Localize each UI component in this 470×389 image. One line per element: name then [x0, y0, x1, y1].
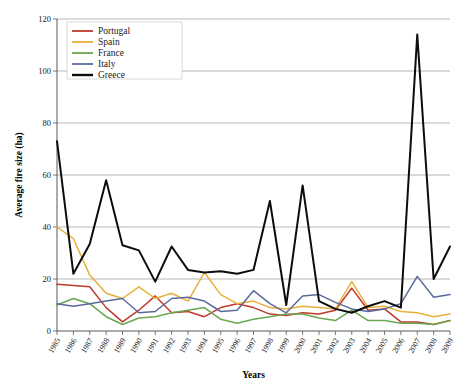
x-tick-label: 1999: [276, 337, 292, 355]
y-axis-title: Average fire size (ha): [14, 132, 25, 217]
x-tick-label: 1998: [259, 337, 275, 355]
x-tick-label: 2001: [308, 337, 324, 355]
x-tick-label: 1996: [227, 337, 243, 355]
x-tick-label: 1985: [46, 337, 62, 355]
x-axis-title: Years: [242, 370, 265, 380]
chart-container: 020406080100120 198519861987198819891990…: [0, 0, 470, 389]
y-tick-label: 100: [38, 66, 51, 76]
y-tick-label: 120: [38, 14, 51, 24]
y-tick-label: 40: [43, 222, 52, 232]
x-tick-label: 2007: [407, 337, 423, 355]
line-chart: 020406080100120 198519861987198819891990…: [0, 0, 470, 389]
x-tick-label: 1988: [96, 337, 112, 355]
x-tick-label: 1995: [210, 337, 226, 355]
x-tick-label: 1986: [63, 337, 79, 355]
x-tick-label: 2006: [390, 337, 406, 355]
y-tick-label: 60: [43, 170, 52, 180]
x-tick-label: 1997: [243, 337, 259, 355]
x-tick-label: 1991: [145, 337, 161, 355]
legend-label-greece: Greece: [98, 70, 125, 80]
x-tick-label: 1987: [79, 337, 95, 355]
x-tick-label: 1993: [177, 337, 193, 355]
legend-label-france: France: [98, 48, 124, 58]
y-tick-label: 0: [47, 326, 51, 336]
legend-label-spain: Spain: [98, 37, 120, 47]
x-tick-label: 2004: [358, 337, 374, 355]
chart-legend: PortugalSpainFranceItalyGreece: [67, 22, 182, 80]
y-tick-label: 80: [43, 118, 52, 128]
x-tick-label: 2009: [439, 337, 455, 355]
x-tick-label: 1994: [194, 337, 210, 355]
legend-label-portugal: Portugal: [98, 26, 131, 36]
x-tick-label: 2002: [325, 337, 341, 355]
x-tick-label: 2008: [423, 337, 439, 355]
x-tick-label: 1989: [112, 337, 128, 355]
y-axis-tick-labels: 020406080100120: [38, 14, 51, 336]
x-tick-label: 2000: [292, 337, 308, 355]
x-tick-label: 1990: [128, 337, 144, 355]
x-axis-tick-labels: 1985198619871988198919901991199219931994…: [46, 337, 455, 355]
x-tick-label: 2003: [341, 337, 357, 355]
x-tick-label: 1992: [161, 337, 177, 355]
series-line-france: [57, 299, 450, 325]
legend-label-italy: Italy: [98, 59, 116, 69]
x-tick-label: 2005: [374, 337, 390, 355]
x-axis-ticks: [57, 331, 450, 335]
y-tick-label: 20: [43, 274, 52, 284]
